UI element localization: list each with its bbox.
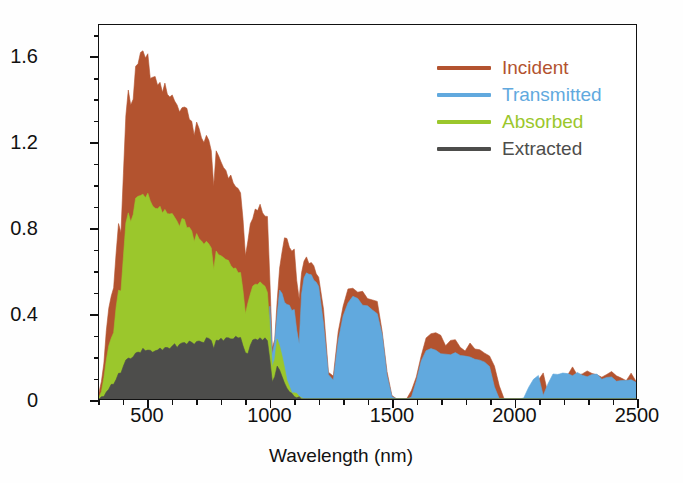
y-tick-label: 1.6 bbox=[10, 45, 38, 68]
legend-label: Extracted bbox=[502, 139, 582, 158]
x-tick-label: 1000 bbox=[247, 404, 292, 427]
legend-swatch-icon bbox=[437, 66, 491, 70]
x-tick-minor bbox=[441, 399, 443, 405]
x-tick-label: 2500 bbox=[615, 404, 660, 427]
x-tick-minor bbox=[466, 399, 468, 405]
x-tick-minor bbox=[221, 399, 223, 405]
x-tick-minor bbox=[343, 399, 345, 405]
y-tick-major bbox=[90, 56, 99, 58]
legend-swatch-icon bbox=[437, 147, 491, 151]
x-tick-minor bbox=[123, 399, 125, 405]
y-tick-minor bbox=[94, 357, 100, 359]
y-tick-minor bbox=[94, 78, 100, 80]
x-tick-minor bbox=[319, 399, 321, 405]
legend-label: Absorbed bbox=[502, 112, 583, 131]
legend-label: Transmitted bbox=[502, 85, 602, 104]
y-tick-major bbox=[90, 228, 99, 230]
x-tick-label: 2000 bbox=[492, 404, 537, 427]
legend-label: Incident bbox=[502, 58, 569, 77]
x-tick-minor bbox=[172, 399, 174, 405]
y-tick-major bbox=[90, 142, 99, 144]
y-tick-minor bbox=[94, 271, 100, 273]
legend-item[interactable]: Extracted bbox=[437, 135, 602, 162]
y-tick-minor bbox=[94, 164, 100, 166]
x-tick-minor bbox=[294, 399, 296, 405]
y-tick-major bbox=[90, 314, 99, 316]
legend-item[interactable]: Incident bbox=[437, 54, 602, 81]
y-tick-minor bbox=[94, 35, 100, 37]
x-tick-label: 500 bbox=[130, 404, 163, 427]
solar-power-spectrum-figure: Solar power (W m−2 nm−1) 00.40.81.21.6 5… bbox=[0, 0, 683, 483]
y-tick-minor bbox=[94, 336, 100, 338]
y-tick-minor bbox=[94, 99, 100, 101]
x-tick-minor bbox=[564, 399, 566, 405]
x-axis-title: Wavelength (nm) bbox=[269, 445, 413, 467]
y-tick-minor bbox=[94, 185, 100, 187]
x-tick-minor bbox=[588, 399, 590, 405]
x-tick-minor bbox=[98, 399, 100, 405]
legend-item[interactable]: Transmitted bbox=[437, 81, 602, 108]
y-tick-minor bbox=[94, 379, 100, 381]
legend-item[interactable]: Absorbed bbox=[437, 108, 602, 135]
y-tick-label: 0.4 bbox=[10, 303, 38, 326]
y-tick-label: 0 bbox=[27, 389, 38, 412]
x-tick-minor bbox=[417, 399, 419, 405]
x-tick-minor bbox=[539, 399, 541, 405]
y-tick-label: 0.8 bbox=[10, 217, 38, 240]
legend-swatch-icon bbox=[437, 120, 491, 124]
legend-swatch-icon bbox=[437, 93, 491, 97]
chart-legend: IncidentTransmittedAbsorbedExtracted bbox=[437, 54, 602, 162]
y-tick-minor bbox=[94, 293, 100, 295]
x-tick-minor bbox=[196, 399, 198, 405]
x-tick-label: 1500 bbox=[370, 404, 415, 427]
y-tick-minor bbox=[94, 250, 100, 252]
y-tick-minor bbox=[94, 121, 100, 123]
y-tick-minor bbox=[94, 207, 100, 209]
y-tick-label: 1.2 bbox=[10, 131, 38, 154]
